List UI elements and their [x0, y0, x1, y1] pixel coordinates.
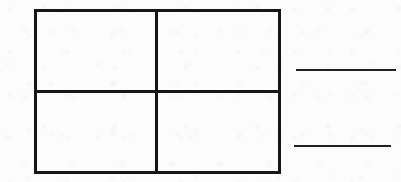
grid-cell-top-left[interactable]	[37, 12, 155, 90]
grid-cell-bottom-right[interactable]	[158, 93, 278, 171]
grid-table	[34, 9, 281, 174]
answer-rule-upper[interactable]	[296, 69, 396, 71]
answer-rule-lower[interactable]	[294, 145, 391, 147]
grid-divider-horizontal	[34, 90, 281, 93]
grid-cell-top-right[interactable]	[158, 12, 278, 90]
grid-cell-bottom-left[interactable]	[37, 93, 155, 171]
diagram-canvas	[0, 0, 401, 182]
